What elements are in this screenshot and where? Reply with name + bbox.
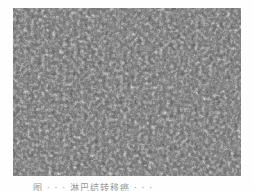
micrograph-texture <box>13 8 241 176</box>
micrograph-figure <box>13 8 241 176</box>
page: 图 · · · 淋巴结转移癌 · · · <box>0 0 254 191</box>
figure-caption: 图 · · · 淋巴结转移癌 · · · <box>33 183 233 191</box>
